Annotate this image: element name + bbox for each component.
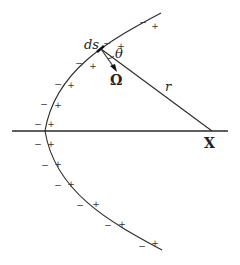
label-omega: Ω bbox=[110, 72, 122, 88]
negative-charge-sign: − bbox=[76, 200, 84, 210]
positive-charge-sign: + bbox=[67, 80, 75, 90]
negative-charge-sign: − bbox=[34, 119, 42, 129]
radius-line bbox=[101, 49, 212, 131]
negative-charge-sign: − bbox=[104, 220, 112, 230]
positive-charge-sign: + bbox=[47, 139, 55, 149]
negative-charge-sign: − bbox=[54, 180, 62, 190]
positive-charge-sign: + bbox=[118, 219, 126, 229]
positive-charge-sign: + bbox=[67, 179, 75, 189]
positive-charge-sign: + bbox=[54, 159, 62, 169]
negative-charge-sign: − bbox=[138, 241, 146, 251]
charged-surface-diagram: ds θ Ω r X −+−+−+−+−+−+−+−+−+−+−+−+ bbox=[0, 0, 240, 265]
label-x: X bbox=[204, 135, 215, 151]
positive-charge-sign: + bbox=[117, 41, 125, 51]
label-r: r bbox=[165, 79, 172, 94]
positive-charge-sign: + bbox=[92, 199, 100, 209]
negative-charge-sign: − bbox=[40, 99, 48, 109]
arrowhead-icon bbox=[110, 64, 117, 72]
negative-charge-sign: − bbox=[103, 38, 111, 48]
positive-charge-sign: + bbox=[47, 119, 55, 129]
negative-charge-sign: − bbox=[54, 79, 62, 89]
positive-charge-sign: + bbox=[151, 21, 159, 31]
negative-charge-sign: − bbox=[34, 139, 42, 149]
positive-charge-sign: + bbox=[54, 100, 62, 110]
label-ds: ds bbox=[84, 37, 99, 52]
negative-charge-sign: − bbox=[139, 17, 147, 27]
negative-charge-sign: − bbox=[41, 160, 49, 170]
positive-charge-sign: + bbox=[89, 61, 97, 71]
positive-charge-sign: + bbox=[151, 238, 159, 248]
negative-charge-sign: − bbox=[75, 58, 83, 68]
